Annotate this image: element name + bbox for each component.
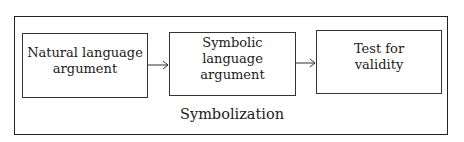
box-label-line2: argument xyxy=(170,67,295,83)
symbolization-label: Symbolization xyxy=(0,106,464,122)
box-label-line2: validity xyxy=(354,57,404,73)
test-for-validity-box: Test for validity xyxy=(316,30,442,94)
box-label-line1: Test for xyxy=(354,41,404,57)
box-label-line2: argument xyxy=(27,61,143,77)
box-label-line1: Symbolic language xyxy=(170,35,295,67)
box-label-line1: Natural language xyxy=(27,45,143,61)
symbolic-language-argument-box: Symbolic language argument xyxy=(169,32,296,96)
natural-language-argument-box: Natural language argument xyxy=(22,33,148,98)
